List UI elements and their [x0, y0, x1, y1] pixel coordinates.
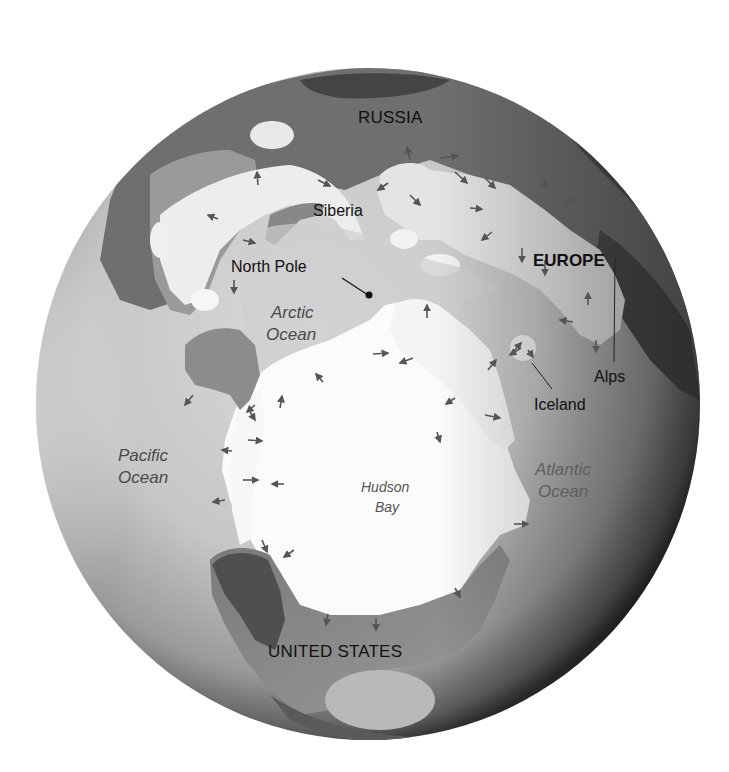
label-europe: EUROPE [533, 251, 605, 270]
label-arctic-ocean-line2: Ocean [266, 325, 316, 344]
label-hudson-bay-line2: Bay [375, 499, 400, 515]
label-arctic-ocean-line1: Arctic [270, 303, 314, 322]
arrow-icon [222, 450, 232, 451]
arrow-icon [248, 440, 262, 441]
label-atlantic-ocean-line1: Atlantic [534, 460, 591, 479]
label-north-pole: North Pole [231, 258, 307, 275]
arrow-icon [373, 353, 388, 354]
label-siberia: Siberia [313, 202, 363, 219]
label-iceland: Iceland [534, 396, 586, 413]
north-pole-marker [366, 292, 373, 299]
label-atlantic-ocean-line2: Ocean [538, 482, 588, 501]
label-united-states: UNITED STATES [268, 642, 402, 661]
label-pacific-ocean-line1: Pacific [118, 446, 169, 465]
label-pacific-ocean-line2: Ocean [118, 468, 168, 487]
label-hudson-bay-line1: Hudson [361, 479, 409, 495]
label-alps: Alps [594, 368, 625, 385]
arrow-icon [257, 172, 258, 185]
arrow-icon [470, 208, 482, 209]
glaciation-globe-map: RUSSIA Siberia North Pole EUROPE Arctic … [0, 0, 729, 772]
label-russia: RUSSIA [358, 108, 423, 127]
